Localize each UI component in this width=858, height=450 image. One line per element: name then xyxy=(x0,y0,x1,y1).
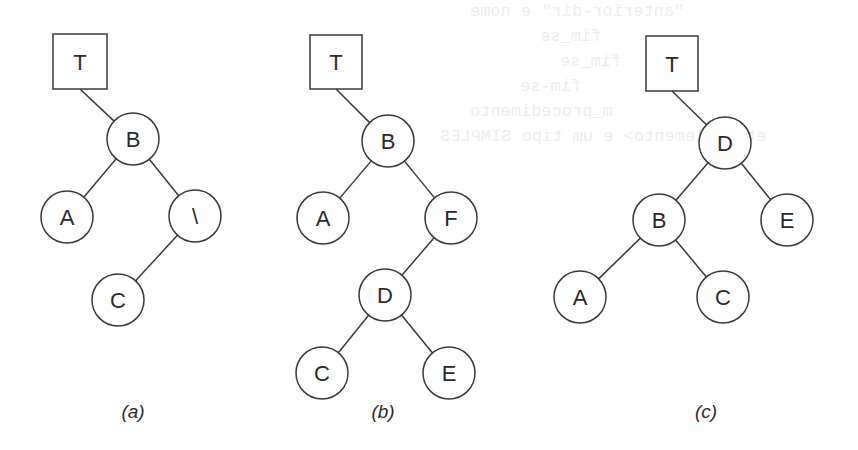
tree-node: E xyxy=(761,194,813,246)
tree-node: B xyxy=(362,115,414,167)
root-pointer-label: T xyxy=(665,52,678,77)
node-label: A xyxy=(316,206,331,231)
tree-node: A xyxy=(41,191,93,243)
tree-edge xyxy=(338,315,368,353)
tree-edge xyxy=(404,161,434,198)
panel-caption: (c) xyxy=(695,401,717,422)
tree-edge xyxy=(672,91,706,125)
root-pointer-label: T xyxy=(329,50,342,75)
tree-node: \ xyxy=(169,190,221,242)
node-label: F xyxy=(444,206,457,231)
panel-b-tree: TBAFDCE(b) xyxy=(296,35,477,422)
tree-edge xyxy=(336,89,370,123)
tree-edge xyxy=(401,315,432,353)
node-label: E xyxy=(780,208,795,233)
tree-node: E xyxy=(423,347,475,399)
panel-c-tree: TDBEAC(c) xyxy=(554,36,813,422)
node-label: E xyxy=(442,361,457,386)
tree-node: B xyxy=(107,113,159,165)
node-label: D xyxy=(717,131,733,156)
node-label: B xyxy=(652,208,667,233)
tree-edge xyxy=(741,163,770,199)
panel-caption: (b) xyxy=(371,401,394,422)
tree-edge xyxy=(80,89,114,121)
tree-node: C xyxy=(296,347,348,399)
tree-edge xyxy=(676,163,708,201)
tree-edge xyxy=(84,159,116,197)
tree-node: D xyxy=(359,269,411,321)
node-label: A xyxy=(573,285,588,310)
tree-edge xyxy=(402,238,434,276)
panel-a-tree: TBA\C(a) xyxy=(41,34,221,422)
node-label: C xyxy=(110,288,126,313)
tree-node: A xyxy=(297,192,349,244)
tree-node: B xyxy=(633,194,685,246)
tree-node: A xyxy=(554,271,606,323)
node-label: A xyxy=(60,205,75,230)
node-label: B xyxy=(126,127,141,152)
tree-edge xyxy=(340,161,371,198)
node-label: C xyxy=(314,361,330,386)
tree-edge xyxy=(676,240,707,277)
tree-node: C xyxy=(697,271,749,323)
tree-node: C xyxy=(92,274,144,326)
node-label: \ xyxy=(192,204,199,229)
node-label: B xyxy=(381,129,396,154)
root-pointer-label: T xyxy=(73,50,86,75)
tree-node: F xyxy=(425,192,477,244)
tree-edge xyxy=(136,235,178,281)
node-label: D xyxy=(377,283,393,308)
binary-tree-figure: TBA\C(a) TBAFDCE(b) TDBEAC(c) xyxy=(0,0,858,450)
tree-node: D xyxy=(699,117,751,169)
tree-edge xyxy=(149,159,178,195)
node-label: C xyxy=(715,285,731,310)
tree-edge xyxy=(599,238,641,279)
panel-caption: (a) xyxy=(121,401,144,422)
